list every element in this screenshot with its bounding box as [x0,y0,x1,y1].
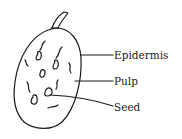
fruit-outline [14,28,81,128]
pulp-fiber [27,82,30,92]
label-pulp: Pulp [114,75,138,87]
fruit-diagram [0,0,182,139]
pulp-fiber [40,41,45,50]
pulp-fiber [56,80,58,89]
label-seed: Seed [114,101,140,113]
pulp-fiber [56,47,62,58]
pulp-fiber [25,60,28,66]
seed [40,70,45,78]
pulp-fiber [48,105,58,108]
seed [36,51,41,60]
seed [31,95,37,104]
seed-leader [50,95,113,106]
label-epidermis: Epidermis [114,49,168,61]
seed [53,60,58,69]
pulp-fiber [69,63,71,73]
stalk [52,12,68,28]
